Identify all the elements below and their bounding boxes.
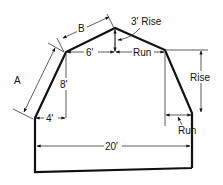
label-overall-width: 20' xyxy=(105,141,118,152)
label-b: B xyxy=(78,23,85,34)
label-upper-right-run: Run xyxy=(133,47,151,58)
label-upper-rise: 3' Rise xyxy=(131,16,162,27)
dimension-a xyxy=(24,48,55,112)
leader-lower-right-run xyxy=(178,117,182,125)
label-lower-right-rise: Rise xyxy=(190,72,210,83)
label-a: A xyxy=(14,75,21,86)
label-upper-run: 6' xyxy=(86,47,94,58)
label-lower-left-run: 4' xyxy=(46,113,54,124)
extension-tick-b-right xyxy=(107,14,114,28)
label-knee-height: 8' xyxy=(60,79,68,90)
extension-tick-a-bottom xyxy=(13,109,33,119)
gambrel-roof-diagram: A B 6' 3' Rise Run 8' Rise 4' Run 20' xyxy=(0,0,223,185)
label-lower-right-run: Run xyxy=(178,125,196,136)
